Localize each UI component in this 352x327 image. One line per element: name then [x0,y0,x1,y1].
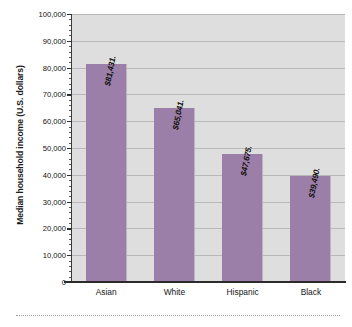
y-axis-tick-label: 0 [26,278,66,287]
plot-area: $81,431.$65,041.$47,675.$39,490. [72,14,345,282]
y-axis-tick-label: 40,000 [26,170,66,179]
bar-value-label: $65,041. [171,99,186,130]
y-axis-tick-label: 50,000 [26,144,66,153]
gridline [72,41,345,42]
bar: $65,041. [154,108,195,282]
x-axis-line [64,281,346,283]
bar-value-label: $47,675. [239,145,254,176]
bar: $81,431. [86,64,127,282]
gridline [72,14,345,15]
y-axis-tick-label: 10,000 [26,251,66,260]
x-axis-tick-label: White [164,287,185,297]
y-axis-tick-label: 30,000 [26,197,66,206]
bottom-dotted-rule [16,315,340,316]
x-axis-tick-label: Hispanic [227,287,259,297]
bar-chart-figure: Median household income (U.S. dollars) 0… [0,0,352,327]
x-axis-tick-labels: AsianWhiteHispanicBlack [72,287,345,305]
bar: $47,675. [222,154,263,282]
bar-value-label: $39,490. [307,167,322,198]
x-axis-tick-label: Asian [96,287,117,297]
y-axis-tick-label: 20,000 [26,224,66,233]
y-axis-tick-label: 70,000 [26,90,66,99]
x-axis-tick-label: Black [301,287,321,297]
bar-value-label: $81,431. [103,55,118,86]
y-axis-tick-labels: 010,00020,00030,00040,00050,00060,00070,… [26,14,66,281]
y-axis-title-text: Median household income (U.S. dollars) [15,65,25,225]
y-axis-tick-label: 90,000 [26,36,66,45]
y-axis-tick-label: 100,000 [26,10,66,19]
y-axis-tick-label: 80,000 [26,63,66,72]
y-axis-tick-label: 60,000 [26,117,66,126]
bar: $39,490. [290,176,331,282]
